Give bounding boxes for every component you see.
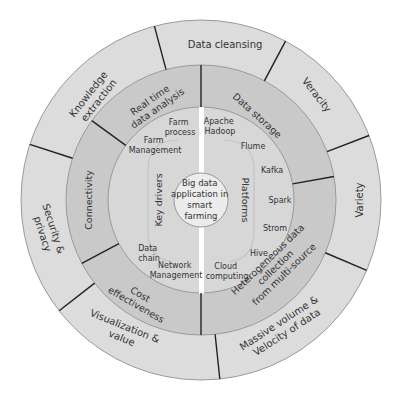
platform-apache-hadoop: Apache Hadoop [204, 117, 236, 136]
platform-flume: Flume [241, 142, 266, 151]
platform-spark: Spark [269, 196, 292, 205]
key-driver-farm-process: Farm process [165, 118, 196, 137]
key-drivers-title: Key drivers [153, 173, 164, 226]
big-data-smart-farming-diagram: Big data application in smart farming Ke… [0, 0, 401, 401]
key-driver-data-chain: Data chain [138, 244, 160, 263]
platform-strom: Strom [263, 224, 287, 233]
middle-label-connectivity: Connectivity [83, 170, 94, 230]
platforms-title: Platforms [240, 177, 251, 222]
outer-label-variety: Variety [354, 182, 365, 217]
platform-kafka: Kafka [261, 166, 283, 175]
outer-label-data-cleansing: Data cleansing [188, 39, 263, 50]
